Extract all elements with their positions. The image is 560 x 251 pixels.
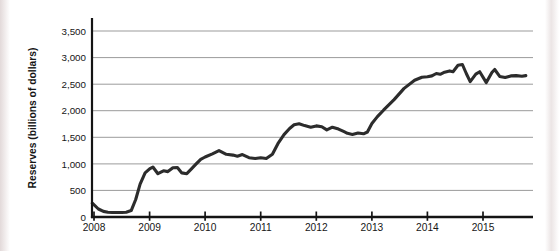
x-tick-label-2015: 2015 bbox=[472, 222, 495, 233]
axes bbox=[91, 18, 533, 218]
y-axis-title: Reserves (billions of dollars) bbox=[27, 48, 38, 189]
x-tick-label-2010: 2010 bbox=[194, 222, 217, 233]
y-tick-label-2000: 2,000 bbox=[61, 105, 86, 116]
y-tick-label-3000: 3,000 bbox=[61, 52, 86, 63]
x-axis-tick-labels: 20082009201020112012201320142015 bbox=[83, 222, 495, 233]
reserves-line-chart: 05001,0001,5002,0002,5003,0003,500 20082… bbox=[0, 0, 560, 251]
gridlines bbox=[92, 31, 533, 190]
x-tick-label-2009: 2009 bbox=[138, 222, 161, 233]
y-tick-label-1500: 1,500 bbox=[61, 132, 86, 143]
y-tick-label-500: 500 bbox=[70, 185, 87, 196]
x-tick-label-2014: 2014 bbox=[416, 222, 439, 233]
x-tick-label-2013: 2013 bbox=[361, 222, 384, 233]
x-tick-label-2008: 2008 bbox=[83, 222, 106, 233]
textbook-page: 05001,0001,5002,0002,5003,0003,500 20082… bbox=[0, 0, 560, 251]
y-tick-label-3500: 3,500 bbox=[61, 26, 86, 37]
x-tick-label-2011: 2011 bbox=[250, 222, 272, 233]
y-axis-tick-labels: 05001,0001,5002,0002,5003,0003,500 bbox=[61, 26, 86, 223]
y-tick-label-1000: 1,000 bbox=[61, 159, 86, 170]
x-tick-label-2012: 2012 bbox=[305, 222, 328, 233]
y-tick-label-2500: 2,500 bbox=[61, 79, 86, 90]
